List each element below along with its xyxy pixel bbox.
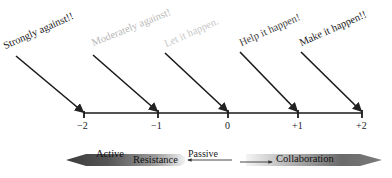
arrow-moderately-against: [93, 55, 157, 111]
label-resistance: Resistance: [133, 154, 178, 165]
label-active: Active: [96, 148, 124, 159]
arrow-let-it-happen: [165, 53, 227, 111]
tick-label-minus-1: −1: [151, 120, 162, 131]
axis-ticks: [84, 110, 362, 118]
label-collaboration: Collaboration: [276, 153, 334, 164]
tick-label-plus-1: +1: [292, 120, 303, 131]
tick-label-plus-2: +2: [356, 120, 367, 131]
tick-label-zero: 0: [225, 120, 230, 131]
position-arrows: [16, 52, 361, 112]
arrow-make-it-happen: [301, 52, 361, 111]
label-passive: Passive: [188, 148, 218, 159]
arrow-strongly-against: [16, 56, 83, 112]
arrow-help-it-happen: [240, 52, 297, 111]
tick-label-minus-2: −2: [77, 120, 88, 131]
